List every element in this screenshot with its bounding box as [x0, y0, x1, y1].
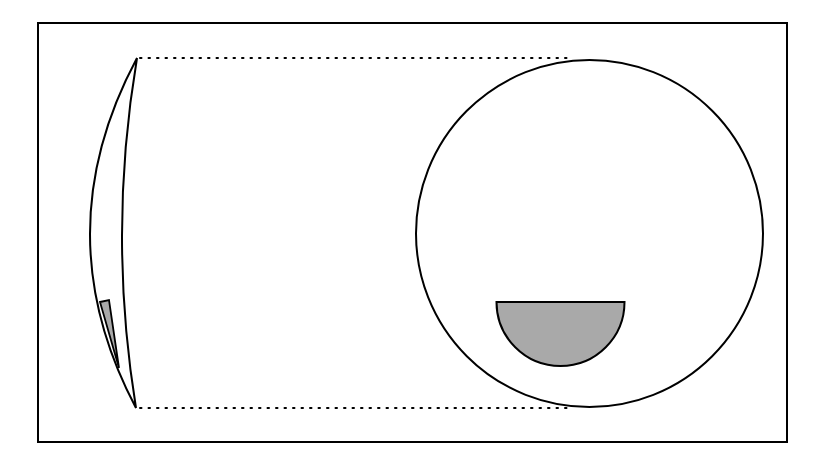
shaded-half-disk: [497, 302, 625, 366]
curved-lens: [90, 58, 137, 408]
diagram-frame: [38, 23, 787, 442]
lens-projection-diagram: [0, 0, 825, 469]
